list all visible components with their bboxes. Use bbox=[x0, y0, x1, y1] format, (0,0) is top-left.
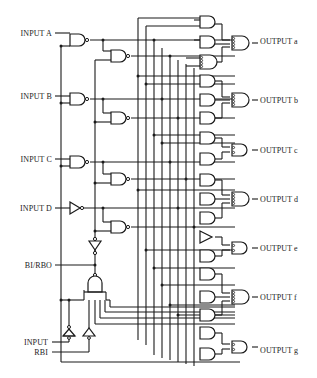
nand-gate-c bbox=[70, 156, 89, 168]
output-gate-d bbox=[232, 192, 249, 206]
logic-diagram bbox=[0, 0, 317, 378]
output-gate-g bbox=[232, 341, 247, 353]
output-gate-a bbox=[232, 36, 249, 50]
output-gate-b bbox=[232, 93, 249, 107]
nand-gate-a bbox=[70, 34, 89, 46]
output-gate-e bbox=[232, 242, 247, 254]
and-gate-column bbox=[200, 16, 217, 360]
output-gate-c bbox=[232, 144, 247, 156]
nand-gate-b bbox=[70, 93, 89, 105]
output-gate-f bbox=[232, 290, 249, 304]
inverter-d bbox=[70, 202, 84, 214]
